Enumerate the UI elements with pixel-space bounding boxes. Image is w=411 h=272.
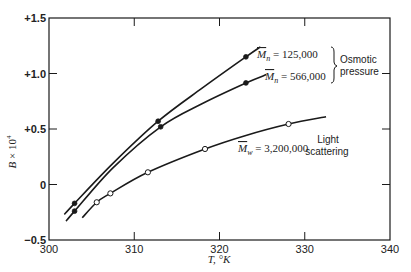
- chart: 300310320330340−0.50+0.5+1.0+1.5 B × 104…: [0, 0, 411, 272]
- filled-data-point: [244, 81, 249, 86]
- label-mw-3200000: Mw = 3,200,000: [237, 142, 309, 157]
- filled-data-point: [244, 54, 249, 59]
- filled-data-point: [72, 209, 77, 214]
- label-light: Light: [317, 134, 339, 145]
- label-pressure: pressure: [340, 66, 379, 77]
- open-data-point: [286, 121, 291, 126]
- x-tick-label: 330: [296, 243, 314, 255]
- y-tick-label: +0.5: [24, 123, 46, 135]
- filled-data-point: [72, 201, 77, 206]
- filled-data-point: [156, 119, 161, 124]
- open-data-point: [202, 146, 207, 151]
- x-tick-label: 310: [125, 243, 143, 255]
- open-data-point: [145, 170, 150, 175]
- x-axis-title: T, °K: [208, 253, 231, 265]
- y-tick-label: −0.5: [24, 234, 46, 246]
- open-data-point: [94, 200, 99, 205]
- osmotic-bracket: [331, 47, 337, 83]
- label-mn-566000: Mn = 566,000: [264, 70, 326, 85]
- y-axis-title: B × 104: [5, 135, 18, 168]
- plot-frame: [49, 18, 390, 240]
- series-line-2: [82, 117, 326, 218]
- y-tick-label: 0: [40, 179, 46, 191]
- open-data-point: [108, 191, 113, 196]
- label-scattering: scattering: [305, 146, 348, 157]
- x-tick-label: 340: [381, 243, 399, 255]
- y-tick-label: +1.5: [24, 12, 46, 24]
- series-line-1: [66, 75, 266, 222]
- label-mn-125000: Mn = 125,000: [256, 48, 318, 63]
- y-tick-label: +1.0: [24, 68, 46, 80]
- axis-ticks: 300310320330340−0.50+0.5+1.0+1.5: [24, 12, 399, 255]
- plot-border: [49, 18, 390, 240]
- filled-data-point: [158, 124, 163, 129]
- label-osmotic: Osmotic: [340, 54, 377, 65]
